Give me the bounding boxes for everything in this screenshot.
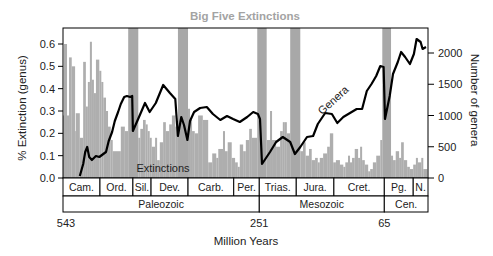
extinction-bar [376, 156, 380, 178]
extinction-bar [76, 113, 80, 178]
left-y-axis: 0.00.10.20.30.40.50.6 [40, 38, 63, 184]
y-tick-label: 0.5 [40, 60, 55, 72]
extinction-bar [320, 158, 323, 178]
extinction-bar [228, 142, 232, 178]
extinction-bar [64, 44, 67, 178]
geologic-timescale: Cam.Ord.Sil.Dev.Carb.Per.Trias.Jura.Cret… [63, 178, 428, 212]
extinction-bar [336, 160, 340, 178]
x-axis-ticks: 54325165 [57, 217, 391, 229]
extinction-bar [99, 71, 101, 178]
extinction-bar [348, 156, 350, 178]
extinction-bar [404, 160, 407, 178]
x-axis-label: Million Years [214, 235, 279, 247]
extinction-bar [318, 162, 320, 178]
period-label: Ord. [106, 181, 126, 193]
y2-tick-label: 1000 [438, 110, 462, 122]
right-y-axis: 0500100015002000 [428, 47, 462, 184]
y-tick-label: 0.1 [40, 150, 55, 162]
y2-tick-label: 500 [438, 141, 456, 153]
extinction-bar [300, 151, 303, 178]
extinction-bar [243, 151, 246, 178]
mass-extinction-band [290, 28, 300, 178]
y-axis-label: % Extinction (genus) [16, 55, 28, 161]
extinction-bar [416, 158, 418, 178]
extinction-bar [238, 167, 240, 178]
extinction-bar [362, 160, 365, 178]
y-tick-label: 0.4 [40, 83, 55, 95]
y2-tick-label: 2000 [438, 47, 462, 59]
extinction-bar [380, 140, 382, 178]
extinction-bar [355, 149, 358, 178]
extinction-bar [72, 66, 75, 178]
extinction-bar [103, 98, 106, 178]
extinction-bar [203, 120, 208, 178]
genera-series-label: Genera [315, 83, 351, 117]
extinction-bar [330, 133, 333, 178]
extinction-bar [240, 145, 243, 179]
extinction-bar [208, 162, 212, 178]
y-tick-label: 0.0 [40, 172, 55, 184]
extinction-bar [67, 115, 69, 178]
extinction-bar [315, 158, 318, 178]
y-tick-label: 0.3 [40, 105, 55, 117]
big-five-extinctions-chart: Big Five Extinctions 0.00.10.20.30.40.50… [0, 0, 493, 256]
extinction-bar [370, 169, 373, 178]
extinction-bar [223, 131, 225, 178]
extinction-bar [407, 167, 410, 178]
extinction-bar [88, 82, 90, 178]
extinction-bar [125, 131, 128, 178]
x-tick-label: 251 [250, 217, 268, 229]
extinction-bar [333, 162, 336, 178]
extinction-bar [413, 165, 416, 178]
y2-axis-label: Number of genera [469, 54, 481, 147]
extinction-bar [399, 158, 401, 178]
extinction-bar [198, 115, 203, 178]
extinction-bar [92, 80, 94, 178]
extinction-bar [396, 151, 399, 178]
extinction-bar [111, 140, 113, 178]
extinction-bar [101, 82, 103, 178]
extinction-bar [216, 158, 218, 178]
extinction-bar [365, 165, 368, 178]
extinction-bar [418, 162, 421, 178]
y-tick-label: 0.6 [40, 38, 55, 50]
extinction-bar [358, 158, 360, 178]
extinction-bar [212, 153, 216, 178]
extinction-bar [190, 120, 192, 178]
extinction-bar [373, 162, 376, 178]
extinction-bar [350, 162, 352, 178]
extinction-bar [69, 57, 72, 178]
extinction-bar [86, 107, 88, 178]
extinction-bar [235, 162, 238, 178]
extinction-bar [352, 158, 355, 178]
extinction-bar [232, 158, 235, 178]
era-label: Cen. [395, 198, 417, 210]
period-label: Sil. [135, 181, 150, 193]
extinction-bar [94, 93, 96, 178]
extinction-bar [410, 169, 413, 178]
extinctions-series-label: Extinctions [136, 162, 190, 174]
x-tick-label: 543 [57, 217, 75, 229]
period-label: Trias. [265, 181, 291, 193]
extinction-bar [327, 147, 330, 178]
extinction-bar [96, 60, 99, 178]
extinction-bar [218, 149, 223, 178]
y-tick-label: 0.2 [40, 127, 55, 139]
mass-extinction-band [178, 28, 188, 178]
extinction-bar [401, 142, 404, 178]
y2-tick-label: 1500 [438, 78, 462, 90]
period-label: Cret. [348, 181, 371, 193]
extinction-bar [340, 165, 343, 178]
extinction-bar [249, 129, 252, 178]
extinction-bar [283, 122, 285, 178]
extinction-bar [309, 149, 312, 178]
extinction-bar [113, 151, 121, 178]
extinction-bar [393, 160, 396, 178]
extinction-bar [343, 167, 345, 178]
extinction-bar [360, 147, 362, 178]
extinction-bar [303, 142, 306, 178]
extinction-bar [195, 133, 198, 178]
extinction-bar [270, 111, 272, 178]
extinction-bar [267, 140, 270, 178]
extinction-bar [312, 160, 315, 178]
